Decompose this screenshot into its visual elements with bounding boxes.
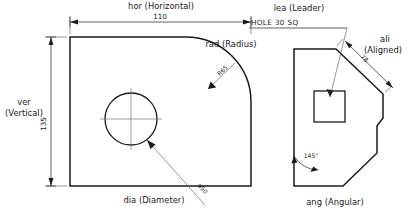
ver-dimension-label-line1: ver [17, 97, 31, 107]
drawing-canvas: 110 hor (Horizontal) 135 ver (Vertical) … [0, 0, 409, 212]
dia-dimension-label: dia (Diameter) [123, 195, 184, 205]
ang-dimension-value: 145° [304, 152, 319, 159]
hor-dimension-value: 110 [153, 12, 167, 21]
lea-arrow [327, 89, 334, 97]
ver-arrow-bottom [49, 178, 54, 186]
ang-dimension-label: ang (Angular) [306, 197, 364, 207]
ali-dimension-label-line1: ali [380, 34, 390, 44]
lea-leader-slant [330, 28, 347, 97]
technical-drawing-svg: 110 hor (Horizontal) 135 ver (Vertical) … [0, 0, 409, 212]
lea-hole-note: HOLE 30 SQ [251, 18, 299, 27]
hor-dimension-label: hor (Horizontal) [128, 1, 194, 11]
ver-arrow-top [49, 37, 54, 45]
ali-extension-start [337, 39, 343, 46]
ver-dimension-value: 135 [39, 117, 48, 131]
ali-dimension-label-line2: (Aligned) [364, 45, 402, 55]
left-part-outline [70, 37, 251, 186]
rad-dimension-value: R65 [216, 63, 230, 77]
rad-dimension-label: rad (Radius) [205, 39, 256, 49]
ver-dimension-label-line2: (Vertical) [5, 108, 43, 118]
hor-arrow-left [70, 20, 78, 25]
hor-arrow-right [243, 20, 251, 25]
dia-dimension-value: ø50 [196, 182, 209, 195]
right-part-outline [294, 49, 383, 186]
lea-dimension-label: lea (Leader) [274, 3, 325, 13]
